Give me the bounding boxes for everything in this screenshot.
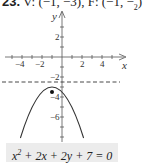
parabola-graph: y x −4 −2 2 4 2 −2 −4 −6 [0,0,146,164]
x-tick-label: −2 [35,59,45,69]
y-axis [60,12,64,142]
y-tick-label: 2 [55,32,60,42]
y-tick-label: −6 [50,112,60,122]
x-axis-label: x [121,59,127,71]
x-tick-label: 4 [100,59,105,69]
x-tick-label: −4 [15,59,25,69]
x-tick-label: 2 [80,59,85,69]
y-axis-label: y [51,10,57,22]
y-tick-label: −2 [50,72,60,82]
equation-rest: + 2x + 2y + 7 = 0 [21,149,112,163]
focus-point [50,90,54,94]
equation-box: x2 + 2x + 2y + 7 = 0 [6,143,118,162]
